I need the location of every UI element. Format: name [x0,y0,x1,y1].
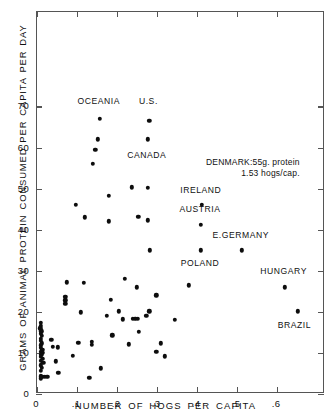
x-tick-bottom-0 [37,387,38,393]
y-tick-left-2 [36,312,42,313]
y-tick-right-4 [318,230,324,231]
data-point-34 [105,313,109,317]
data-point-16 [148,248,152,252]
y-tick-label-4: 40 [18,223,29,234]
data-point-5 [90,162,94,166]
data-point-82 [45,375,49,379]
annotation-poland: POLAND [181,258,220,268]
data-point-57 [56,345,60,349]
data-point-6 [130,185,134,189]
y-tick-left-0 [36,394,42,395]
data-point-canada [146,137,150,141]
data-point-oceania [98,117,102,121]
x-tick-label-4: .4 [192,398,201,409]
data-point-54 [126,342,130,346]
x-tick-bottom-1 [77,387,78,393]
annotation-hungary: HUNGARY [260,266,307,276]
data-point-70 [163,354,167,358]
annotation-ireland: IRELAND [180,185,221,195]
data-point-austria [199,223,203,227]
y-tick-left-5 [36,189,42,190]
data-point-brazil [296,309,300,313]
data-point-33 [147,309,151,313]
y-tick-left-6 [36,148,42,149]
y-tick-right-5 [318,189,324,190]
data-point-25 [154,293,158,297]
y-tick-right-7 [318,106,324,107]
data-point-78 [56,371,60,375]
x-tick-bottom-6 [277,387,278,393]
y-tick-label-7: 70 [18,100,29,111]
x-tick-bottom-3 [157,387,158,393]
data-point-7 [146,186,150,190]
x-tick-top-0 [37,11,38,17]
data-point-20 [64,280,68,284]
data-point-4 [93,147,97,151]
data-point-2 [96,137,100,141]
data-point-84 [87,376,91,380]
data-point-11 [136,214,140,218]
data-point-72 [54,359,58,363]
data-point-e-germany [240,248,244,252]
x-tick-bottom-5 [237,387,238,393]
annotation-austria: AUSTRIA [179,204,220,214]
x-tick-top-2 [117,11,118,17]
y-tick-right-2 [318,312,324,313]
denmark-note-line1: DENMARK:55g. protein [206,157,300,167]
data-point-hungary [282,285,286,289]
x-tick-label-0: 0 [33,398,39,409]
data-point-poland [199,248,203,252]
y-tick-left-4 [36,230,42,231]
y-axis-title: GRAMS OF ANIMAL PROTEIN CONSUMED PER CAP… [17,8,28,388]
annotation-u-s-: U.S. [139,96,158,106]
data-point-66 [71,354,75,358]
data-point-13 [146,218,150,222]
data-point-37 [120,317,124,321]
data-point-46 [137,329,141,333]
x-tick-label-2: .2 [112,398,121,409]
data-point-76 [98,366,102,370]
x-tick-label-3: .3 [152,398,161,409]
annotation-oceania: OCEANIA [78,96,121,106]
data-point-36 [173,318,177,322]
scatter-plot-figure: NUMBER OF HOGS PER CAPITA GRAMS OF ANIMA… [0,0,331,416]
y-tick-label-2: 20 [18,305,29,316]
data-point-26 [108,297,112,301]
data-point-59 [90,343,94,347]
y-tick-left-3 [36,271,42,272]
y-tick-label-3: 30 [18,264,29,275]
y-tick-label-0: 0 [23,388,29,399]
annotation-e-germany: E.GERMANY [213,230,270,240]
denmark-note-line2: 1.53 hogs/cap. [206,168,300,179]
annotation-denmark-note: DENMARK:55g. protein1.53 hogs/cap. [206,157,300,179]
data-point-35 [144,314,148,318]
x-axis-title: NUMBER OF HOGS PER CAPITA [0,400,331,411]
data-point-83 [38,376,42,380]
y-tick-label-6: 60 [18,141,29,152]
y-tick-label-5: 50 [18,182,29,193]
data-point-19 [123,277,127,281]
data-point-40 [136,317,140,321]
y-tick-label-1: 10 [18,346,29,357]
data-point-8 [107,193,111,197]
x-tick-top-6 [277,11,278,17]
y-tick-right-0 [318,394,324,395]
y-tick-right-3 [318,271,324,272]
x-tick-top-4 [197,11,198,17]
data-point-60 [159,341,163,345]
x-tick-label-5: .5 [232,398,241,409]
data-point-77 [39,369,43,373]
data-point-14 [107,219,111,223]
data-point-69 [154,349,158,353]
x-tick-label-6: .6 [272,398,281,409]
data-point-u-s- [147,119,151,123]
data-point-31 [79,310,83,314]
y-tick-right-6 [318,148,324,149]
data-point-53 [76,340,80,344]
x-tick-top-5 [237,11,238,17]
x-tick-top-3 [157,11,158,17]
annotation-canada: CANADA [127,150,166,160]
data-point-50 [49,338,53,342]
data-point-29 [63,301,67,305]
x-tick-bottom-2 [117,387,118,393]
